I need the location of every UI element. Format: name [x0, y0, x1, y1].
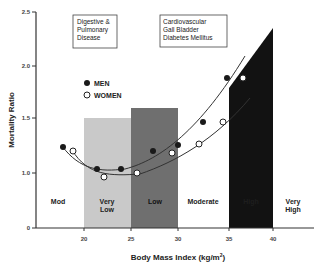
- women-point: [220, 119, 226, 125]
- band-label-high: High: [243, 198, 259, 206]
- women-point: [101, 174, 107, 180]
- x-axis-title-end: ): [223, 253, 226, 262]
- women-point: [196, 141, 202, 147]
- band-label-very-low: Very: [100, 198, 115, 206]
- annotation-text: Diabetes Mellitus: [163, 34, 213, 41]
- xtick-label: 35: [226, 236, 233, 242]
- annotation-text: Disease: [77, 34, 101, 41]
- women-point: [240, 75, 246, 81]
- y-tick-labels: 2.5 2.0 1.5 1.0 0: [22, 9, 31, 231]
- band-label-very-low: Low: [100, 206, 115, 213]
- women-point: [169, 150, 175, 156]
- legend-men-label: MEN: [94, 80, 110, 87]
- ytick-label: 0: [27, 225, 31, 231]
- women-point: [134, 170, 140, 176]
- annotation-digestive: Digestive & Pulmonary Disease: [73, 15, 117, 48]
- ytick-label: 2.0: [22, 63, 31, 69]
- band-label-mod: Mod: [51, 198, 65, 205]
- legend: MEN WOMEN: [84, 80, 122, 99]
- ytick-label: 1.5: [22, 115, 31, 121]
- xtick-label: 20: [81, 236, 88, 242]
- annotation-text: Cardiovascular: [163, 18, 207, 25]
- men-point: [150, 148, 156, 154]
- men-point: [200, 119, 206, 125]
- bmi-mortality-chart: 2.5 2.0 1.5 1.0 0 20 25 30 35 40 Mortali…: [0, 0, 321, 267]
- ytick-label: 2.5: [22, 9, 31, 15]
- xtick-label: 30: [175, 236, 182, 242]
- ytick-label: 1.0: [22, 170, 31, 176]
- annotation-text: Digestive &: [77, 18, 111, 26]
- y-axis-title: Mortality Ratio: [7, 92, 16, 148]
- band-label-moderate: Moderate: [187, 198, 218, 205]
- x-axis-title: Body Mass Index (kg/m2): [131, 252, 226, 262]
- legend-men-marker: [84, 80, 90, 86]
- men-point: [118, 166, 124, 172]
- annotation-text: Gall Bladder: [163, 26, 200, 33]
- annotation-text: Pulmonary: [77, 26, 109, 34]
- men-point: [224, 75, 230, 81]
- men-point: [94, 166, 100, 172]
- x-tick-labels: 20 25 30 35 40: [81, 236, 277, 242]
- men-point: [60, 144, 66, 150]
- annotation-cardiovascular: Cardiovascular Gall Bladder Diabetes Mel…: [160, 15, 227, 47]
- xtick-label: 25: [128, 236, 135, 242]
- band-label-very-high: High: [285, 206, 301, 214]
- women-point: [70, 148, 76, 154]
- xtick-label: 40: [270, 236, 277, 242]
- band-label-low: Low: [148, 198, 163, 205]
- legend-women-marker: [84, 92, 90, 98]
- legend-women-label: WOMEN: [94, 92, 122, 99]
- men-point: [175, 142, 181, 148]
- x-axis-title-main: Body Mass Index (kg/m: [131, 253, 220, 262]
- band-label-very-high: Very: [286, 198, 301, 206]
